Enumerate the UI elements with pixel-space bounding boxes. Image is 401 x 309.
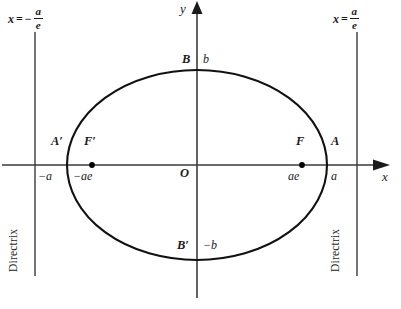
left-directrix-fraction: a e — [34, 6, 43, 31]
y-axis-label: y — [180, 2, 186, 15]
left-vertex-label: A′ — [51, 135, 63, 148]
ellipse-directrix-figure: y x O B b B′ −b A′ −a A a F′ −ae F ae x … — [0, 0, 401, 309]
x-axis-label: x — [382, 170, 388, 183]
right-directrix-denominator: e — [351, 19, 358, 31]
right-vertex-label: A — [331, 135, 339, 148]
right-focus-value: ae — [288, 170, 299, 182]
right-directrix-eq-equals: = — [341, 13, 348, 25]
left-directrix-eq-equals: = — [16, 13, 23, 25]
right-focus-point — [299, 162, 305, 168]
right-directrix-fraction: a e — [350, 6, 359, 31]
right-directrix-equation: x = a e — [333, 6, 359, 31]
left-directrix-numerator: a — [34, 6, 42, 18]
left-vertex-value: −a — [38, 170, 52, 182]
left-directrix-caption: Directrix — [7, 229, 19, 272]
left-directrix-eq-lhs: x — [8, 13, 14, 25]
top-vertex-value: b — [203, 53, 209, 65]
left-focus-label: F′ — [84, 135, 96, 148]
right-directrix-numerator: a — [351, 6, 359, 18]
top-vertex-label: B — [182, 53, 190, 66]
left-directrix-denominator: e — [35, 19, 42, 31]
left-directrix-equation: x = − a e — [8, 6, 43, 31]
right-vertex-value: a — [331, 170, 337, 182]
right-focus-label: F — [296, 135, 304, 148]
left-directrix-eq-sign: − — [25, 13, 32, 25]
y-axis — [192, 1, 203, 298]
origin-label: O — [180, 167, 189, 180]
right-directrix-eq-lhs: x — [333, 13, 339, 25]
left-focus-value: −ae — [73, 170, 92, 182]
bottom-vertex-value: −b — [203, 239, 217, 251]
right-directrix-caption: Directrix — [329, 229, 341, 272]
y-axis-arrowhead — [192, 1, 203, 14]
left-focus-point — [89, 162, 95, 168]
bottom-vertex-label: B′ — [177, 239, 189, 252]
